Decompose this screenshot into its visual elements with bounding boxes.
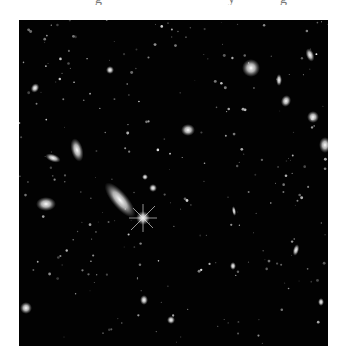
galaxy [230, 262, 236, 270]
text-fragment: y [228, 0, 235, 5]
galaxy [276, 74, 282, 86]
galaxy [181, 124, 195, 136]
galaxy [142, 174, 148, 180]
deep-field-photograph [19, 20, 328, 346]
cropped-caption-text: g y g [0, 0, 345, 5]
galaxy [318, 298, 324, 306]
galaxy [106, 66, 114, 74]
galaxy [242, 59, 260, 77]
galaxy [140, 295, 148, 305]
galaxy [307, 111, 319, 123]
galaxy [167, 316, 175, 324]
galaxy [36, 197, 56, 211]
galaxy-field [19, 20, 328, 346]
text-fragment: g [95, 0, 102, 5]
text-fragment: g [280, 0, 287, 5]
galaxy [20, 302, 32, 314]
galaxy [149, 184, 157, 192]
